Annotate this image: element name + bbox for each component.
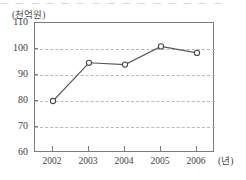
- y-tickmark-80: [34, 100, 38, 101]
- y-tick-label-90: 90: [2, 69, 28, 79]
- y-tickmark-100: [34, 48, 38, 49]
- x-tickmark-2002: [52, 146, 53, 152]
- y-tickmark-90: [34, 74, 38, 75]
- x-tick-label-2006: 2006: [174, 156, 218, 166]
- data-point-2003: [86, 60, 91, 65]
- data-point-2002: [50, 98, 55, 103]
- y-tick-label-110: 110: [2, 17, 28, 27]
- series-polyline: [53, 46, 197, 101]
- y-tick-label-60: 60: [2, 147, 28, 157]
- top-edge-text-remnant: ㅡ ㅡ ㅡ ㅡ ㅡ ㅡ ㅡ ㅡ ㅡ ㅡ ㅡ ㅡ ㅡ ㅡ ㅡ: [0, 0, 246, 6]
- x-tickmark-2004: [124, 146, 125, 152]
- chart-page: ㅡ ㅡ ㅡ ㅡ ㅡ ㅡ ㅡ ㅡ ㅡ ㅡ ㅡ ㅡ ㅡ ㅡ ㅡ (천억원) 6070…: [0, 0, 246, 180]
- series-markers: [50, 44, 199, 104]
- y-tick-label-70: 70: [2, 121, 28, 131]
- x-tickmark-2005: [160, 146, 161, 152]
- y-tick-label-80: 80: [2, 95, 28, 105]
- data-point-2005: [158, 44, 163, 49]
- plot-area: [34, 22, 214, 152]
- y-tickmark-70: [34, 126, 38, 127]
- y-tick-label-100: 100: [2, 43, 28, 53]
- line-series: [35, 23, 215, 153]
- x-tickmark-2003: [88, 146, 89, 152]
- x-axis-unit-label: (년): [218, 156, 233, 166]
- data-point-2006: [194, 50, 199, 55]
- x-tickmark-2006: [196, 146, 197, 152]
- data-point-2004: [122, 62, 127, 67]
